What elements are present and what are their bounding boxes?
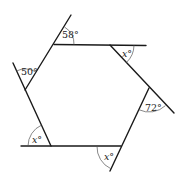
- top-side-extended: [54, 45, 146, 46]
- upper-left-side-extended: [25, 15, 71, 90]
- angle-label-bottom-left: x°: [32, 134, 42, 145]
- angle-label-top-right: x°: [122, 48, 132, 59]
- angle-label-bottom-right: x°: [104, 151, 114, 162]
- lower-right-side-extended: [110, 88, 149, 171]
- hexagon-diagram: 58° x° 72° x° x° 50°: [0, 0, 186, 178]
- angle-label-right: 72°: [145, 102, 162, 113]
- angle-label-top-left: 58°: [62, 29, 79, 40]
- angle-label-left: 50°: [21, 66, 38, 77]
